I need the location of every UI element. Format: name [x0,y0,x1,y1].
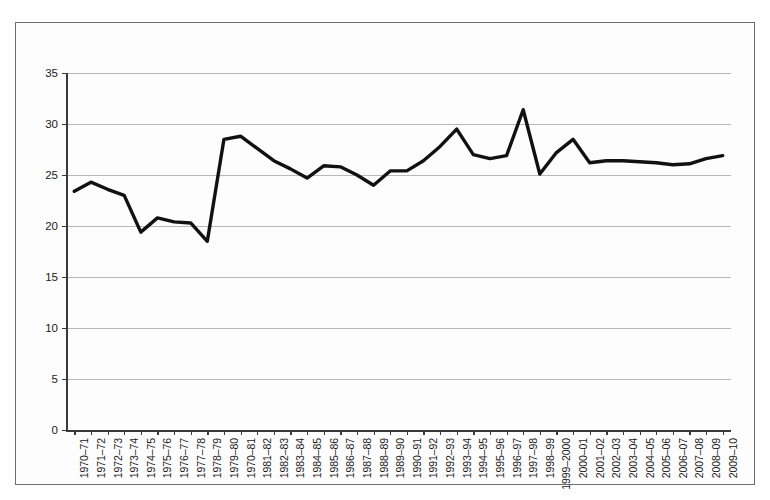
plot-area: 05101520253035 1970–711971–721972–731973… [66,73,731,430]
x-axis-tick-mark [573,430,574,435]
x-axis-tick-mark [224,430,225,435]
x-axis-tick-mark [689,430,690,435]
x-axis-tick-mark [507,430,508,435]
y-axis-tick-label: 0 [18,424,58,436]
x-axis-tick-label: 2005–06 [660,438,672,478]
x-axis-line [66,430,731,432]
x-axis-tick-label: 1994–95 [477,438,489,478]
x-axis-tick-mark [590,430,591,435]
x-axis-tick-mark [623,430,624,435]
x-axis-tick-mark [423,430,424,435]
y-axis-tick-label: 35 [18,67,58,79]
x-axis-tick-label: 1976–77 [178,438,190,478]
x-axis-tick-label: 1981–82 [261,438,273,478]
x-axis-tick-label: 2007–08 [693,438,705,478]
x-axis-tick-label: 1978–79 [211,438,223,478]
x-axis-tick-mark [108,430,109,435]
x-axis-tick-mark [457,430,458,435]
x-axis-tick-mark [390,430,391,435]
x-axis-tick-label: 2003–04 [627,438,639,478]
x-axis-tick-mark [74,430,75,435]
x-axis-tick-label: 1979–80 [228,438,240,478]
x-axis-tick-mark [656,430,657,435]
x-axis-tick-label: 1990–91 [411,438,423,478]
x-axis-tick-label: 1997–98 [527,438,539,478]
x-axis-tick-label: 1982–83 [278,438,290,478]
x-axis-tick-label: 2000–01 [577,438,589,478]
y-axis-tick-label: 5 [18,373,58,385]
x-axis-tick-label: 1977–78 [195,438,207,478]
x-axis-tick-label: 1970–71 [78,438,90,478]
y-axis-tick-mark [62,430,67,431]
x-axis-tick-label: 2006–07 [677,438,689,478]
x-axis-tick-label: 1996–97 [511,438,523,478]
x-axis-tick-label: 1983–84 [294,438,306,478]
x-axis-tick-label: 1973–74 [128,438,140,478]
x-axis-tick-mark [340,430,341,435]
chart-frame: 05101520253035 1970–711971–721972–731973… [15,22,755,485]
x-axis-tick-mark [241,430,242,435]
x-axis-tick-label: 1974–75 [145,438,157,478]
x-axis-tick-mark [374,430,375,435]
y-axis-tick-label: 20 [18,220,58,232]
x-axis-tick-mark [706,430,707,435]
x-axis-tick-label: 2008–09 [710,438,722,478]
x-axis-tick-mark [556,430,557,435]
x-axis-tick-mark [324,430,325,435]
x-axis-tick-label: 1992–93 [444,438,456,478]
x-axis-tick-label: 2001–02 [594,438,606,478]
x-axis-tick-mark [174,430,175,435]
x-axis-tick-label: 1971–72 [95,438,107,478]
x-axis-tick-mark [290,430,291,435]
x-axis-tick-mark [207,430,208,435]
x-axis-tick-mark [540,430,541,435]
x-axis-tick-label: 1988–89 [378,438,390,478]
x-axis-tick-mark [490,430,491,435]
x-axis-tick-mark [440,430,441,435]
x-axis-tick-label: 1972–73 [112,438,124,478]
x-axis-tick-mark [523,430,524,435]
x-axis-tick-label: 1984–85 [311,438,323,478]
y-axis-tick-label: 30 [18,118,58,130]
x-axis-tick-label: 1989–90 [394,438,406,478]
x-axis-tick-mark [606,430,607,435]
x-axis-tick-label: 2004–05 [644,438,656,478]
x-axis-tick-mark [274,430,275,435]
x-axis-tick-label: 2002–03 [610,438,622,478]
x-axis-tick-label: 1998–99 [544,438,556,478]
x-axis-tick-mark [357,430,358,435]
x-axis-tick-mark [191,430,192,435]
x-axis-tick-mark [91,430,92,435]
x-axis-tick-mark [141,430,142,435]
y-axis-tick-label: 10 [18,322,58,334]
x-axis-tick-label: 1999–2000 [560,438,572,490]
x-axis-tick-label: 1970–81 [245,438,257,478]
x-axis-tick-label: 1993–94 [461,438,473,478]
y-axis-tick-label: 15 [18,271,58,283]
x-axis-tick-mark [473,430,474,435]
x-axis-tick-mark [157,430,158,435]
x-axis-tick-mark [673,430,674,435]
x-axis-tick-label: 1995–96 [494,438,506,478]
x-axis-tick-label: 1975–76 [161,438,173,478]
x-axis-tick-label: 1987–88 [361,438,373,478]
x-axis-tick-label: 1985–86 [328,438,340,478]
x-axis-tick-mark [723,430,724,435]
x-axis-tick-label: 1986–87 [344,438,356,478]
chart-figure: 05101520253035 1970–711971–721972–731973… [0,0,770,500]
x-axis-tick-label: 1991–92 [427,438,439,478]
x-axis-tick-mark [407,430,408,435]
x-axis-tick-mark [640,430,641,435]
y-axis-tick-label: 25 [18,169,58,181]
x-axis-tick-mark [124,430,125,435]
x-axis-tick-label: 2009–10 [727,438,739,478]
data-series-line [66,73,731,430]
x-axis-tick-mark [307,430,308,435]
x-axis-tick-mark [257,430,258,435]
